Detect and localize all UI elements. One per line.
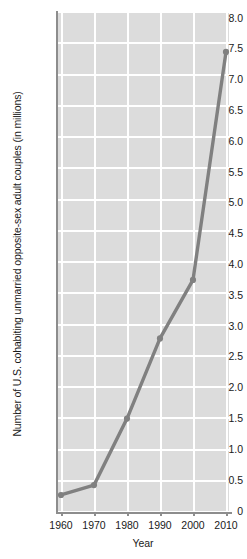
y-axis-tick-label: 0.5 [195,475,247,486]
y-axis-tick-label: 2.0 [195,382,247,393]
y-axis-tick-label: 7.5 [195,43,247,54]
y-axis-tick-label: 4.5 [195,228,247,239]
gridline-vertical [160,11,162,511]
y-axis-line [56,11,58,514]
x-axis-tick [127,512,129,516]
x-axis-tick [160,512,162,516]
y-axis-tick-label: 7.0 [195,74,247,85]
x-axis-title: Year [57,537,229,549]
x-axis-tick [61,512,63,516]
y-axis-tick-label: 3.5 [195,290,247,301]
y-axis-tick-label: 6.5 [195,105,247,116]
gridline-vertical [61,11,63,511]
y-axis-tick-label: 0 [195,506,247,517]
y-axis-tick-label: 8.0 [195,13,247,24]
x-axis-tick [94,512,96,516]
line-chart-figure: Number of U.S. cohabiting unmarried oppo… [0,0,247,559]
x-axis-tick-label: 2010 [206,519,246,531]
y-axis-tick-label: 1.5 [195,413,247,424]
y-axis-tick-label: 3.0 [195,321,247,332]
y-axis-tick-label: 4.0 [195,259,247,270]
y-axis-tick-label: 2.5 [195,351,247,362]
y-axis-tick-label: 5.0 [195,197,247,208]
y-axis-tick-label: 5.5 [195,167,247,178]
y-axis-tick-label: 6.0 [195,136,247,147]
gridline-vertical [127,11,129,511]
y-axis-tick-label: 1.0 [195,444,247,455]
y-axis-title: Number of U.S. cohabiting unmarried oppo… [11,14,23,514]
gridline-vertical [94,11,96,511]
